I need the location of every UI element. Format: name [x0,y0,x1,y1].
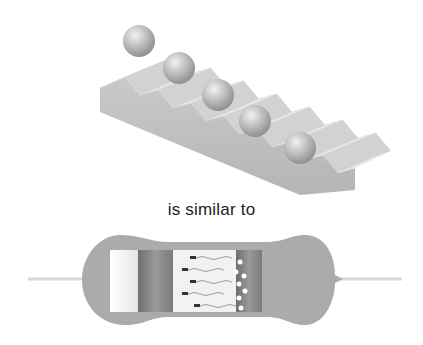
inner-dark-band [236,250,262,312]
ball-2 [163,52,195,84]
carbon-layer [138,250,173,312]
end-cap [110,250,140,312]
staircase-with-balls-illustration [0,0,423,200]
ball-1 [123,25,155,57]
ball-3 [202,79,234,111]
caption: is similar to [0,200,423,220]
ball-4 [239,105,271,137]
resistor-cutaway-illustration [0,225,423,340]
ball-5 [284,132,316,164]
